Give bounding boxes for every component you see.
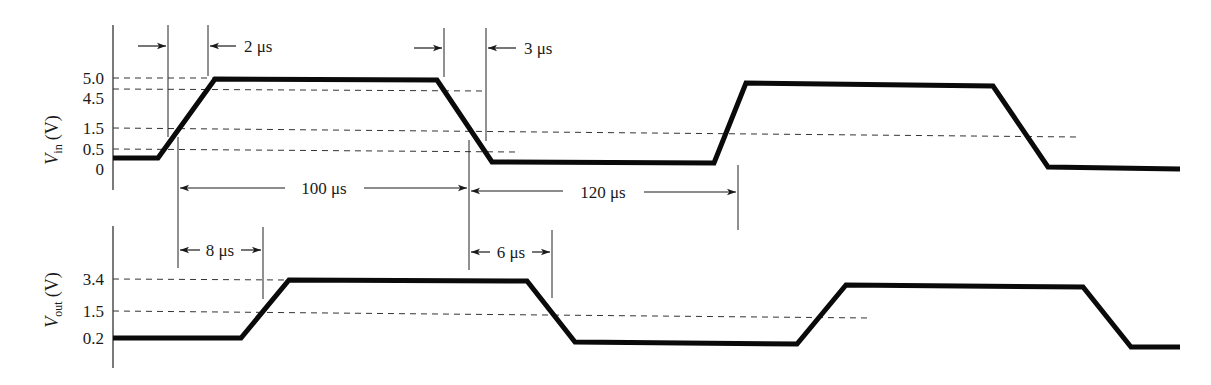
fall-time-label: 3 μs <box>524 39 552 58</box>
vout-label-unit: (V) <box>42 272 63 297</box>
voltage-waveform-diagram: Vin(V) 5.0 4.5 1.5 0.5 0 2 μs 3 μs <box>0 0 1211 385</box>
rise-time-label: 2 μs <box>244 37 272 56</box>
vout-tick-0.2: 0.2 <box>83 329 104 348</box>
vin-ref-1.5 <box>113 128 1078 137</box>
output-panel: Vout(V) 3.4 1.5 0.2 8 μs 6 μs <box>42 226 1180 368</box>
vout-ref-1.5 <box>113 311 870 318</box>
input-panel: Vin(V) 5.0 4.5 1.5 0.5 0 2 μs 3 μs <box>42 25 1180 270</box>
vout-tick-1.5: 1.5 <box>83 302 104 321</box>
svg-text:Vin(V): Vin(V) <box>42 115 65 164</box>
vin-tick-0: 0 <box>96 160 105 179</box>
vin-tick-1.5: 1.5 <box>83 119 104 138</box>
vin-label-sub: in <box>51 144 65 153</box>
vout-tick-3.4: 3.4 <box>83 270 105 289</box>
vin-tick-5.0: 5.0 <box>83 69 104 88</box>
vout-axis-label: Vout(V) <box>42 272 65 327</box>
vin-label-unit: (V) <box>42 115 63 140</box>
vin-axis-label: Vin(V) <box>42 115 65 164</box>
vin-reference-lines <box>113 78 1078 152</box>
vout-waveform <box>113 280 1180 347</box>
vin-ref-0.5 <box>113 149 515 152</box>
vout-label-sub: out <box>51 301 65 317</box>
vin-tick-0.5: 0.5 <box>83 140 104 159</box>
tphl-label: 6 μs <box>497 243 525 262</box>
vout-reference-lines <box>113 279 870 318</box>
vin-waveform <box>113 79 1180 169</box>
high-width-label: 100 μs <box>301 179 346 198</box>
low-width-label: 120 μs <box>580 183 625 202</box>
svg-text:Vout(V): Vout(V) <box>42 272 65 327</box>
vin-tick-4.5: 4.5 <box>83 89 104 108</box>
tplh-label: 8 μs <box>206 241 234 260</box>
